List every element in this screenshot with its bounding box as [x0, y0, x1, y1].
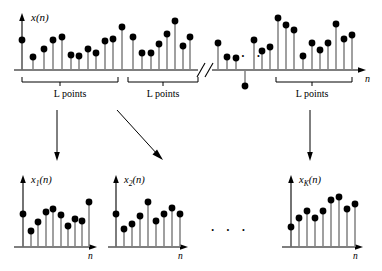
connector-arrow-2	[117, 110, 163, 160]
subplot-x2-x-label: n	[178, 251, 183, 261]
subplot-x2: x2(n) n	[108, 174, 188, 261]
subplot-x2-stems	[113, 199, 184, 247]
top-plot-brace-label-3: L points	[296, 88, 329, 99]
subplot-x2-y-label: x2(n)	[123, 174, 145, 188]
subplot-x1: x1(n) n	[14, 174, 97, 261]
subplots-ellipsis: · · ·	[210, 222, 249, 239]
connector-arrow-1	[54, 110, 60, 161]
subplot-xk: xK(n) n	[282, 174, 363, 261]
subplot-x1-y-label: x1(n)	[30, 174, 52, 188]
axis-break-icon	[197, 63, 213, 77]
top-plot-y-label: x(n)	[30, 11, 49, 24]
figure-container: x(n) n	[0, 0, 382, 271]
subplot-xk-stems	[288, 194, 359, 247]
subplot-x1-stems	[20, 199, 93, 247]
top-plot-x-label: n	[365, 73, 370, 84]
subplot-xk-x-label: n	[353, 251, 358, 261]
top-plot-brace-1	[22, 77, 118, 86]
connector-arrow-3	[307, 110, 313, 161]
top-plot-brace-2	[128, 77, 198, 86]
subplot-x1-x-axis	[14, 244, 97, 250]
top-plot-stems-block-2	[130, 18, 194, 70]
top-plot-ellipsis: · · ·	[225, 48, 264, 65]
top-plot-brace-3	[276, 77, 352, 86]
subplot-x1-x-label: n	[88, 251, 93, 261]
top-plot-stems-block-1	[19, 24, 126, 70]
top-plot-brace-label-1: L points	[54, 88, 87, 99]
top-plot-brace-label-2: L points	[147, 88, 180, 99]
block-decomposition-diagram: x(n) n	[0, 0, 382, 271]
subplot-xk-y-label: xK(n)	[298, 174, 321, 188]
top-plot: x(n) n	[14, 11, 370, 99]
